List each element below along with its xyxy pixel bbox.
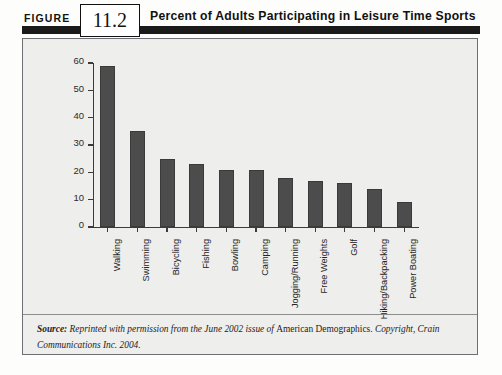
- x-axis-tick: [255, 227, 256, 232]
- y-axis-tick-label: 60: [73, 55, 84, 66]
- source-text-before: Reprinted with permission from the June …: [67, 324, 276, 334]
- bar: [337, 183, 352, 227]
- figure-number-box: 11.2: [80, 4, 140, 37]
- y-axis-tick-label: 0: [79, 219, 84, 230]
- x-axis-tick: [226, 227, 227, 232]
- y-axis-tick: 20: [88, 172, 93, 173]
- y-axis-tick: 30: [88, 144, 93, 145]
- y-axis-tick-label: 20: [73, 165, 84, 176]
- bar: [100, 66, 115, 227]
- bar: [308, 181, 323, 227]
- y-axis-tick: 10: [88, 199, 93, 200]
- bar-chart-plot: 0102030405060WalkingSwimmingBicyclingFis…: [93, 63, 419, 227]
- y-axis-tick-label: 10: [73, 192, 84, 203]
- y-axis-tick-label: 50: [73, 83, 84, 94]
- y-axis-tick-label: 40: [73, 110, 84, 121]
- x-axis-tick: [137, 227, 138, 232]
- y-axis-line: [93, 63, 94, 227]
- y-axis-tick: 60: [88, 62, 93, 63]
- chart-area: 0102030405060WalkingSwimmingBicyclingFis…: [23, 39, 479, 314]
- y-axis-tick: 0: [88, 226, 93, 227]
- x-axis-category-label: Free Weights: [319, 239, 329, 293]
- bar: [219, 170, 234, 227]
- source-publication: American Demographics.: [276, 324, 372, 334]
- x-axis-category-label: Bowling: [230, 239, 240, 271]
- x-axis-category-label: Bicycling: [171, 239, 181, 275]
- x-axis-category-label: Camping: [260, 239, 270, 276]
- figure-panel: 0102030405060WalkingSwimmingBicyclingFis…: [22, 38, 478, 355]
- note-divider: [23, 314, 477, 315]
- figure-word-label: FIGURE: [24, 12, 70, 24]
- bar: [278, 178, 293, 227]
- x-axis-category-label: Fishing: [201, 239, 211, 269]
- x-axis-tick: [166, 227, 167, 232]
- bar: [367, 189, 382, 227]
- y-axis-tick: 40: [88, 117, 93, 118]
- figure-root: FIGURE 11.2 Percent of Adults Participat…: [0, 0, 502, 375]
- x-axis-tick: [285, 227, 286, 232]
- x-axis-tick: [107, 227, 108, 232]
- bar: [160, 159, 175, 227]
- x-axis-tick: [196, 227, 197, 232]
- bar: [249, 170, 264, 227]
- bar: [397, 202, 412, 227]
- y-axis-tick-label: 30: [73, 137, 84, 148]
- x-axis-tick: [315, 227, 316, 232]
- x-axis-tick: [404, 227, 405, 232]
- bar: [130, 131, 145, 227]
- source-note: Source: Reprinted with permission from t…: [37, 322, 461, 353]
- x-axis-category-label: Walking: [112, 239, 122, 271]
- x-axis-category-label: Power Boating: [408, 239, 418, 299]
- bar: [189, 164, 204, 227]
- figure-title: Percent of Adults Participating in Leisu…: [150, 9, 476, 23]
- x-axis-category-label: Golf: [349, 239, 359, 256]
- x-axis-tick: [374, 227, 375, 232]
- source-label: Source:: [37, 324, 67, 334]
- figure-header: FIGURE 11.2 Percent of Adults Participat…: [22, 6, 480, 36]
- figure-number: 11.2: [93, 10, 127, 31]
- x-axis-tick: [344, 227, 345, 232]
- x-axis-category-label: Hiking/Backpacking: [379, 239, 389, 319]
- x-axis-category-label: Swimming: [141, 239, 151, 281]
- y-axis-tick: 50: [88, 90, 93, 91]
- x-axis-category-label: Jogging/Running: [290, 239, 300, 308]
